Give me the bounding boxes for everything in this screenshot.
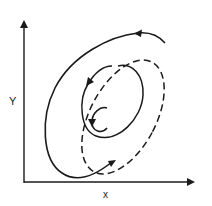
inner-spiral xyxy=(82,65,143,137)
outer-trajectory xyxy=(45,33,165,178)
y-axis-label: Y xyxy=(9,95,16,107)
phase-plane-diagram xyxy=(0,0,212,206)
arrow-dashed-upper-icon xyxy=(86,77,94,86)
x-axis-label: x xyxy=(103,189,108,200)
direction-arrows xyxy=(86,30,142,168)
arrow-outer-top-icon xyxy=(134,30,142,38)
arrow-center-icon xyxy=(88,119,96,127)
